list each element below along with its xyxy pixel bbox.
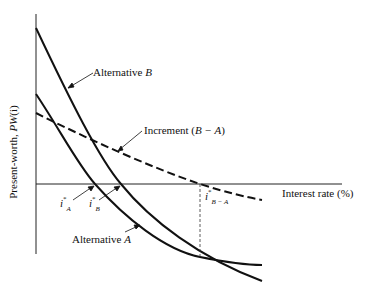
symbol-i-star-b: i*B bbox=[89, 196, 100, 212]
leader-increment bbox=[119, 131, 142, 150]
arrowhead-icon bbox=[88, 186, 94, 191]
symbol-star: * bbox=[208, 188, 212, 196]
label-text: Alternative bbox=[93, 66, 145, 78]
symbol-star: * bbox=[92, 195, 96, 203]
label-alternative-b: Alternative B bbox=[93, 66, 152, 78]
symbol-sub: B bbox=[96, 205, 100, 213]
curve-alternative-a bbox=[36, 94, 262, 265]
arrowhead-icon bbox=[118, 146, 123, 151]
label-increment: Increment (B − A) bbox=[144, 124, 225, 136]
label-text: (i) bbox=[7, 105, 19, 115]
chart-canvas bbox=[0, 0, 372, 301]
symbol-i-star-a: i*A bbox=[60, 196, 71, 212]
label-text: ) bbox=[221, 124, 225, 136]
symbol-i-star-b-minus-a: i*B − A bbox=[205, 189, 228, 205]
label-text: Alternative bbox=[72, 233, 124, 245]
label-x-axis: Interest rate (%) bbox=[282, 187, 353, 199]
label-y-axis: Present-worth, PW(i) bbox=[7, 105, 19, 199]
label-text: Present-worth, bbox=[7, 132, 19, 199]
label-var: B − A bbox=[195, 124, 221, 136]
arrowhead-icon bbox=[114, 186, 120, 191]
arrowhead-icon bbox=[68, 83, 74, 88]
label-var: PW bbox=[7, 116, 19, 132]
label-var: A bbox=[124, 233, 131, 245]
label-var: B bbox=[145, 66, 152, 78]
label-text: Increment ( bbox=[144, 124, 195, 136]
symbol-sub: A bbox=[67, 205, 71, 213]
symbol-star: * bbox=[63, 195, 67, 203]
symbol-sub: B − A bbox=[212, 198, 229, 206]
label-alternative-a: Alternative A bbox=[72, 233, 131, 245]
